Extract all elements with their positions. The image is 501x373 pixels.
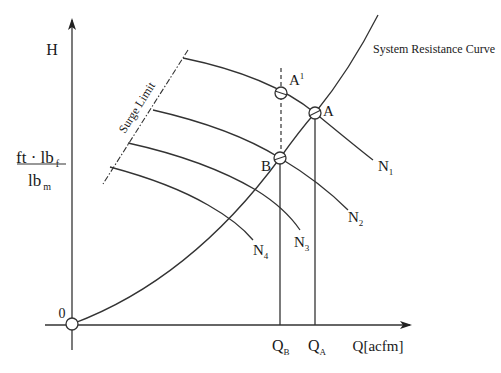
svg-text:lbm: lbm: [28, 171, 51, 192]
flow-label-qa: QA: [308, 337, 327, 357]
flow-label-qb: QB: [272, 337, 290, 357]
y-axis-unit: ft · lbf lbm: [16, 148, 66, 192]
speed-curve-n4: [110, 167, 253, 240]
x-axis-label: Q[acfm]: [353, 338, 404, 354]
speed-label-n3: N3: [294, 234, 310, 253]
surge-limit-line: [103, 50, 188, 184]
fan-curve-diagram: H ft · lbf lbm Q[acfm] 0 Surge Limit N1 …: [0, 0, 501, 373]
speed-label-n1: N1: [378, 158, 393, 177]
speed-label-n2: N2: [348, 209, 363, 228]
unit-denominator-sub: m: [43, 181, 51, 192]
point-a-label: A: [323, 103, 334, 119]
point-a1-label: A1: [289, 71, 304, 88]
origin-point: [66, 318, 78, 330]
surge-limit-label: Surge Limit: [116, 79, 159, 136]
svg-text:ft · lbf: ft · lbf: [16, 148, 60, 169]
origin-label: 0: [59, 306, 66, 321]
system-curve-label: System Resistance Curve: [373, 42, 495, 56]
speed-label-n4: N4: [253, 242, 269, 261]
point-b-label: B: [261, 158, 271, 174]
unit-denominator: lb: [28, 171, 41, 190]
y-axis-label: H: [46, 41, 58, 58]
